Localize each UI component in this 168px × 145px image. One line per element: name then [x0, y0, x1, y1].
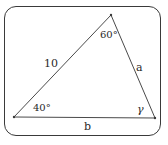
vertex-bottom-right: [154, 117, 156, 119]
angle-label-bottom-left: 40°: [33, 103, 51, 113]
side-label-right: a: [136, 62, 143, 73]
angle-label-top: 60°: [100, 30, 118, 40]
vertex-top: [110, 14, 112, 16]
angle-label-bottom-right: γ: [137, 104, 144, 115]
side-label-left: 10: [44, 58, 58, 69]
vertex-bottom-left: [13, 116, 15, 118]
side-label-bottom: b: [84, 121, 91, 132]
